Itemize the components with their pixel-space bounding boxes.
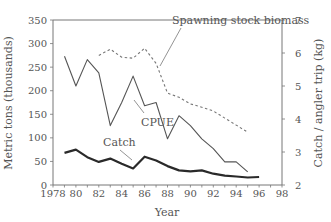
left-y-axis-ticks: 050100150200250300350 bbox=[28, 15, 53, 191]
plot-frame bbox=[53, 20, 282, 185]
right-y-tick-label: 6 bbox=[295, 48, 301, 59]
right-y-tick-label: 3 bbox=[295, 147, 301, 158]
series-cpue bbox=[65, 56, 248, 172]
series-catch bbox=[65, 150, 260, 178]
left-y-tick-label: 200 bbox=[28, 85, 47, 96]
right-y-tick-label: 5 bbox=[295, 81, 301, 92]
annotation-label: Catch bbox=[103, 136, 136, 149]
x-axis-title: Year bbox=[154, 206, 180, 219]
annotation-leader-line bbox=[134, 100, 144, 113]
left-y-tick-label: 150 bbox=[28, 109, 47, 120]
left-y-tick-label: 300 bbox=[28, 38, 47, 49]
left-y-axis-title: Metric tons (thousands) bbox=[2, 36, 15, 170]
x-tick-label: 86 bbox=[138, 188, 151, 199]
x-tick-label: 82 bbox=[92, 188, 105, 199]
annotations: Spawning stock biomassCPUECatch bbox=[103, 14, 310, 160]
x-tick-label: 92 bbox=[207, 188, 220, 199]
x-tick-label: 84 bbox=[115, 188, 128, 199]
annotation-label: CPUE bbox=[141, 116, 174, 129]
x-axis-ticks: 197880828486889092949698 bbox=[40, 185, 288, 199]
right-y-axis-title: Catch / angler trip (kg) bbox=[312, 39, 325, 168]
annotation-leader-line bbox=[160, 28, 181, 66]
series-lines bbox=[65, 48, 260, 177]
annotation-label: Spawning stock biomass bbox=[172, 14, 310, 27]
chart: 197880828486889092949698 050100150200250… bbox=[0, 0, 331, 222]
left-y-tick-label: 250 bbox=[28, 62, 47, 73]
x-tick-label: 98 bbox=[276, 188, 289, 199]
left-y-tick-label: 50 bbox=[34, 156, 47, 167]
x-tick-label: 94 bbox=[230, 188, 243, 199]
right-y-tick-label: 4 bbox=[295, 114, 301, 125]
left-y-tick-label: 350 bbox=[28, 15, 47, 26]
left-y-tick-label: 0 bbox=[41, 180, 47, 191]
left-y-tick-label: 100 bbox=[28, 132, 47, 143]
right-y-axis-ticks: 234567 bbox=[282, 15, 301, 191]
x-tick-label: 88 bbox=[161, 188, 174, 199]
annotation-leader-line bbox=[120, 150, 132, 160]
right-y-tick-label: 2 bbox=[295, 180, 301, 191]
x-tick-label: 80 bbox=[70, 188, 83, 199]
x-tick-label: 90 bbox=[184, 188, 197, 199]
x-tick-label: 96 bbox=[253, 188, 266, 199]
